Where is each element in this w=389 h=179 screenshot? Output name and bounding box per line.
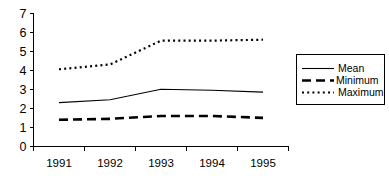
chart-container: 7 6 5 4 3 2 1 0	[0, 0, 389, 179]
line-chart: 7 6 5 4 3 2 1 0	[0, 0, 389, 179]
y-tick-label: 6	[20, 26, 27, 40]
y-tick-label: 4	[20, 64, 27, 78]
legend-label-maximum: Maximum	[338, 86, 384, 98]
y-tick-label: 3	[20, 83, 27, 97]
y-tick-label: 0	[20, 140, 27, 154]
chart-legend: Mean Minimum Maximum	[297, 55, 385, 105]
legend-label-mean: Mean	[338, 62, 364, 74]
y-tick-label: 7	[20, 7, 27, 21]
y-tick-label: 1	[20, 121, 27, 135]
x-tick-label: 1991	[46, 157, 72, 169]
x-tick-label: 1993	[148, 157, 174, 169]
y-tick-label: 5	[20, 45, 27, 59]
x-tick-label: 1995	[250, 157, 276, 169]
x-tick-label: 1992	[97, 157, 123, 169]
x-tick-label: 1994	[199, 157, 225, 169]
y-tick-label: 2	[20, 102, 27, 116]
legend-label-minimum: Minimum	[336, 74, 379, 86]
